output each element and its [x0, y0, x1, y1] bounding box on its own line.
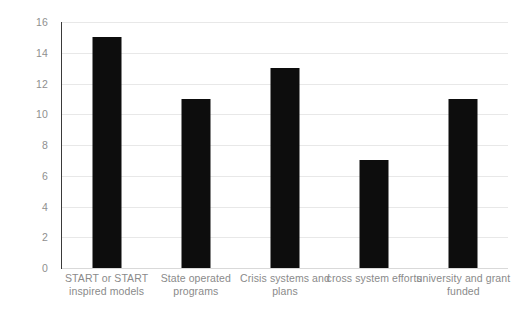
- y-tick-label-4: 4: [8, 201, 48, 213]
- gridline-0: [62, 268, 508, 269]
- y-tick-label-14: 14: [8, 47, 48, 59]
- y-tick-label-6: 6: [8, 170, 48, 182]
- bar-slot: [419, 22, 508, 268]
- bar-slot: [330, 22, 419, 268]
- y-tick-label-10: 10: [8, 108, 48, 120]
- x-category-label: State operated programs: [145, 272, 246, 298]
- bar[interactable]: [270, 68, 299, 268]
- y-tick-label-12: 12: [8, 78, 48, 90]
- bar-slot: [151, 22, 240, 268]
- y-tick-label-2: 2: [8, 231, 48, 243]
- x-category-label: cross system efforts: [324, 272, 425, 285]
- y-tick-label-0: 0: [8, 262, 48, 274]
- bar-slot: [240, 22, 329, 268]
- bar-chart-figure: 1614121086420 START or START inspired mo…: [0, 0, 515, 312]
- x-category-label: university and grant funded: [413, 272, 514, 298]
- x-category-label: START or START inspired models: [56, 272, 157, 298]
- y-tick-label-8: 8: [8, 139, 48, 151]
- bar[interactable]: [449, 99, 478, 268]
- y-tick-label-16: 16: [8, 16, 48, 28]
- x-category-label: Crisis systems and plans: [234, 272, 335, 298]
- bar[interactable]: [92, 37, 121, 268]
- bar[interactable]: [181, 99, 210, 268]
- bar-slot: [62, 22, 151, 268]
- bars-layer: [62, 22, 508, 268]
- bar[interactable]: [360, 160, 389, 268]
- x-axis-category-labels: START or START inspired modelsState oper…: [62, 272, 508, 312]
